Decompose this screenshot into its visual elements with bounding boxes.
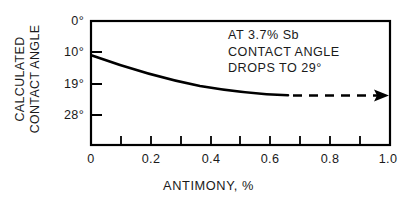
chart-figure: CALCULATED CONTACT ANGLE 0° 10° 19° 28° … xyxy=(0,0,417,210)
y-axis-ticks xyxy=(91,52,102,115)
plot-frame xyxy=(91,21,390,145)
data-curve-solid xyxy=(92,56,288,96)
x-axis-ticks xyxy=(121,136,360,145)
plot-canvas xyxy=(0,0,417,210)
